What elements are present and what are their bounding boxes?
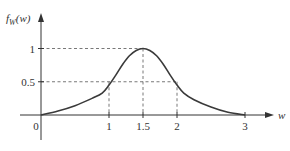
y-tick-label: 0.5 xyxy=(21,76,35,88)
y-label-argument: (w) xyxy=(16,12,31,25)
y-axis-arrow-icon xyxy=(38,13,44,22)
x-axis-arrow-icon xyxy=(265,112,274,118)
x-axis-label: w xyxy=(278,109,286,121)
x-tick-label: 3 xyxy=(242,120,248,132)
x-tick-label: 1.5 xyxy=(136,120,150,132)
x-tick-label: 2 xyxy=(174,120,180,132)
y-axis-label: fW(w) xyxy=(6,12,31,27)
chart: 011.523 0.51 w fW(w) xyxy=(0,0,290,151)
y-tick-label: 1 xyxy=(30,43,36,55)
guide-lines xyxy=(41,49,177,116)
x-tick-label: 0 xyxy=(33,120,39,132)
x-tick-label: 1 xyxy=(106,120,112,132)
